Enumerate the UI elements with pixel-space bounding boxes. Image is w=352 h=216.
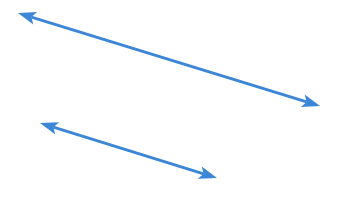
upper-double-arrow bbox=[18, 12, 320, 107]
lower-double-arrow bbox=[40, 122, 217, 179]
drawing-canvas bbox=[0, 0, 352, 216]
arrow-vector-layer bbox=[0, 0, 352, 216]
upper-double-arrow-shaft bbox=[31, 17, 306, 102]
lower-double-arrow-shaft bbox=[53, 127, 203, 174]
